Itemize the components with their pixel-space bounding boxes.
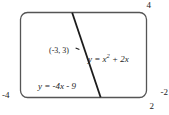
point-coordinate-label: (-3, 3) bbox=[49, 47, 69, 55]
axis-label-x-min: -4 bbox=[2, 91, 10, 100]
axis-label-x-max: 2 bbox=[150, 102, 155, 111]
axis-label-y-max: 4 bbox=[147, 1, 152, 10]
equation-parabola-rhs: + 2x bbox=[110, 54, 129, 64]
equation-label-line: y = -4x - 9 bbox=[38, 82, 76, 91]
axis-label-y-min: -2 bbox=[161, 88, 169, 97]
graph-figure: 4 -4 -2 2 (-3, 3) y = x2 + 2x y = -4x - … bbox=[0, 0, 169, 115]
equation-parabola-lhs: y = x bbox=[88, 54, 107, 64]
equation-label-parabola: y = x2 + 2x bbox=[88, 53, 129, 64]
plot-canvas bbox=[0, 0, 169, 115]
